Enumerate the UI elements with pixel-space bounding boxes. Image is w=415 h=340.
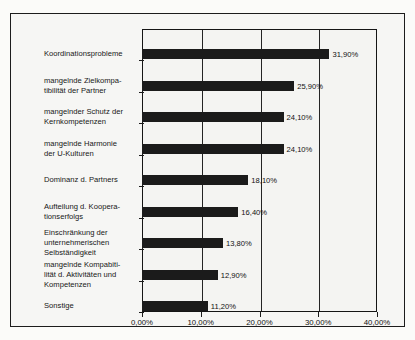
category-label: mangelnde Kompabiti- lität d. Aktivitäte… xyxy=(44,260,144,291)
bar xyxy=(142,144,284,154)
x-axis-tick-label: 30,00% xyxy=(305,318,331,328)
category-label: Einschränkung der unternehmerischen Selb… xyxy=(44,228,144,259)
category-label: mangelnde Harmonie der U-Kulturen xyxy=(44,139,144,159)
bar xyxy=(142,270,218,280)
bar xyxy=(142,207,238,217)
bar xyxy=(142,238,223,248)
x-axis-tick xyxy=(377,312,378,317)
x-axis-tick-label: 10,00% xyxy=(188,318,214,328)
bar-value-label: 13,80% xyxy=(226,239,252,249)
x-axis-tick xyxy=(201,312,202,317)
category-axis-labels: Koordinationsproblememangelnde Zielkompa… xyxy=(44,29,140,312)
bar xyxy=(142,175,248,185)
x-axis-tick-label: 20,00% xyxy=(246,318,272,328)
x-axis-tick xyxy=(142,312,143,317)
bar xyxy=(142,49,329,59)
bar-value-label: 25,90% xyxy=(297,82,323,92)
figure-frame: Koordinationsproblememangelnde Zielkompa… xyxy=(10,13,405,327)
category-label: Sonstige xyxy=(44,301,144,311)
bar-value-label: 24,10% xyxy=(287,113,313,123)
bar-value-label: 18,10% xyxy=(251,176,277,186)
category-label: Dominanz d. Partners xyxy=(44,175,144,185)
y-axis-tick xyxy=(139,312,144,313)
category-label: mangelnde Zielkompa- tibilität der Partn… xyxy=(44,76,144,96)
x-axis-tick-label: 40,00% xyxy=(364,318,390,328)
x-axis-tick-labels: 0,00%10,00%20,00%30,00%40,00% xyxy=(142,318,415,332)
bar-value-label: 31,90% xyxy=(332,50,358,60)
x-axis-tick xyxy=(318,312,319,317)
bar-value-label: 24,10% xyxy=(287,145,313,155)
bar-value-label: 11,20% xyxy=(211,302,236,312)
bar-value-label: 12,90% xyxy=(221,271,247,281)
chart-figure: Koordinationsproblememangelnde Zielkompa… xyxy=(0,0,415,340)
x-axis-tick xyxy=(260,312,261,317)
bar xyxy=(142,301,208,311)
category-label: mangelnder Schutz der Kernkompetenzen xyxy=(44,107,144,127)
bar-value-label: 16,40% xyxy=(241,208,267,218)
bar xyxy=(142,112,284,122)
category-label: Aufteilung d. Koopera- tionserfolgs xyxy=(44,202,144,222)
category-label: Koordinationsprobleme xyxy=(44,49,144,59)
x-axis-tick-label: 0,00% xyxy=(131,318,153,328)
bars-layer: 31,90%25,90%24,10%24,10%18,10%16,40%13,8… xyxy=(142,29,415,312)
bar xyxy=(142,81,294,91)
